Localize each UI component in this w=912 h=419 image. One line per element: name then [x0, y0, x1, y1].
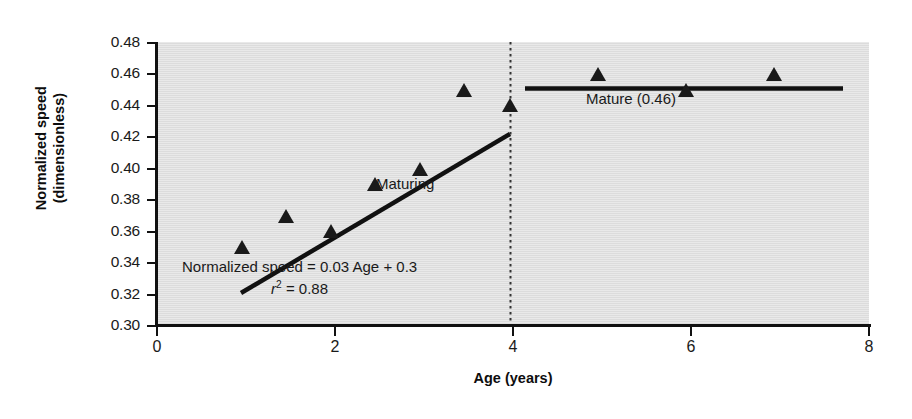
x-axis-tick: [512, 327, 514, 336]
equation-line-1: Normalized speed = 0.03 Age + 0.3: [182, 258, 417, 275]
y-axis-tick-label: 0.40: [88, 159, 140, 177]
y-axis-tick: [147, 73, 156, 75]
annotation-maturing: Maturing: [376, 175, 434, 192]
x-axis-tick-label: 8: [854, 338, 884, 356]
data-point-marker: [766, 67, 782, 81]
equation-line-2: r2 = 0.88: [182, 278, 417, 300]
y-axis-tick: [147, 168, 156, 170]
y-axis-tick-label: 0.34: [88, 253, 140, 271]
y-axis-tick-label: 0.46: [88, 64, 140, 82]
data-point-marker: [412, 162, 428, 176]
y-axis-tick-label: 0.48: [88, 33, 140, 51]
y-axis-tick: [147, 262, 156, 264]
x-axis-title: Age (years): [157, 370, 869, 386]
x-axis-tick-label: 0: [142, 338, 172, 356]
y-axis-tick: [147, 105, 156, 107]
x-axis-tick: [156, 327, 158, 336]
y-axis-tick: [147, 136, 156, 138]
y-axis-tick: [147, 325, 156, 327]
data-point-marker: [278, 209, 294, 223]
y-axis-title-line-2: (dimensionless): [51, 93, 67, 203]
y-axis-tick-label: 0.30: [88, 316, 140, 334]
x-axis-tick: [690, 327, 692, 336]
annotation-mature: Mature (0.46): [586, 90, 676, 107]
y-axis-title: Normalized speed (dimensionless): [32, 38, 68, 258]
y-axis-tick: [147, 42, 156, 44]
r-squared-exponent: 2: [276, 279, 282, 290]
x-axis-tick: [334, 327, 336, 336]
data-point-marker: [590, 67, 606, 81]
x-axis-tick-label: 6: [676, 338, 706, 356]
plot-area: Maturing Mature (0.46) Normalized speed …: [157, 42, 869, 325]
y-axis-tick: [147, 199, 156, 201]
annotation-regression-equation: Normalized speed = 0.03 Age + 0.3 r2 = 0…: [182, 256, 417, 300]
y-axis-tick-label: 0.44: [88, 96, 140, 114]
y-axis-tick: [147, 294, 156, 296]
y-axis-title-line-1: Normalized speed: [33, 86, 49, 210]
x-axis-tick: [868, 327, 870, 336]
y-axis-tick-label: 0.32: [88, 285, 140, 303]
y-axis-tick-label: 0.42: [88, 127, 140, 145]
chart-figure: Maturing Mature (0.46) Normalized speed …: [0, 0, 912, 419]
y-axis-tick-label: 0.38: [88, 190, 140, 208]
y-axis-tick: [147, 231, 156, 233]
x-axis-tick-label: 4: [498, 338, 528, 356]
y-axis-tick-label: 0.36: [88, 222, 140, 240]
x-axis-tick-label: 2: [320, 338, 350, 356]
data-point-marker: [234, 240, 250, 254]
data-point-marker: [323, 224, 339, 238]
data-point-marker: [502, 98, 518, 112]
y-axis-line: [155, 42, 158, 327]
data-point-marker: [456, 83, 472, 97]
r-squared-value: = 0.88: [286, 280, 328, 297]
